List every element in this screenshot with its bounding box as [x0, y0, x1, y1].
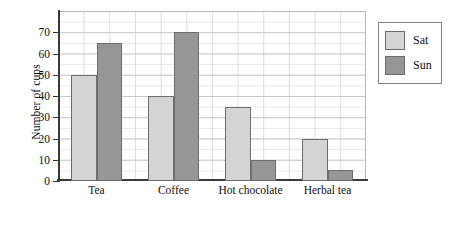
y-tick-label: 30 [39, 111, 51, 123]
bar-sun-hot-chocolate [251, 160, 277, 181]
bar-chart: Number of cups 010203040506070 TeaCoffee… [0, 0, 451, 227]
y-tick-label: 10 [39, 154, 51, 166]
y-tick-mark [53, 75, 59, 76]
y-tick-label: 50 [39, 69, 51, 81]
bar-sun-coffee [174, 32, 200, 181]
legend-swatch-sat-icon [385, 31, 405, 50]
y-tick-mark [53, 139, 59, 140]
bar-sat-coffee [148, 96, 174, 181]
y-tick-label: 40 [39, 90, 51, 102]
legend-swatch-sun-icon [385, 56, 405, 75]
plot-area: 010203040506070 [58, 11, 366, 181]
y-tick-label: 20 [39, 133, 51, 145]
x-tick-label-herbal-tea: Herbal tea [304, 184, 352, 196]
bar-sun-tea [97, 43, 123, 181]
bar-sat-herbal-tea [302, 139, 328, 182]
y-tick-mark [53, 160, 59, 161]
y-tick-mark [53, 32, 59, 33]
y-tick-label: 70 [39, 26, 51, 38]
y-tick-mark [53, 54, 59, 55]
legend-item-sat: Sat [385, 29, 428, 51]
x-tick-label-hot-chocolate: Hot chocolate [218, 184, 282, 196]
y-tick-label: 60 [39, 48, 51, 60]
y-tick-mark [53, 117, 59, 118]
legend-item-sun: Sun [385, 54, 432, 76]
bar-sun-herbal-tea [328, 170, 354, 181]
x-tick-label-coffee: Coffee [158, 184, 189, 196]
bars-layer [58, 11, 366, 181]
y-tick-mark [53, 96, 59, 97]
y-tick-mark [53, 181, 59, 182]
legend-label-sun: Sun [413, 58, 432, 73]
bar-sat-hot-chocolate [225, 107, 251, 181]
legend-label-sat: Sat [413, 33, 428, 48]
y-tick-label: 0 [44, 175, 50, 187]
x-tick-label-tea: Tea [88, 184, 104, 196]
bar-sat-tea [71, 75, 97, 181]
chart-legend: Sat Sun [378, 22, 442, 84]
